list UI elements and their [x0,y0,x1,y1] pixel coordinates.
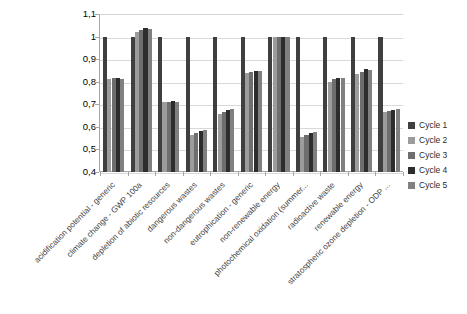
legend-item[interactable]: Cycle 1 [408,118,467,133]
y-axis-tick [95,14,99,15]
bar-group [186,14,207,172]
legend-item-label: Cycle 4 [419,166,447,175]
y-axis-tick [95,82,99,83]
x-axis-tick [128,172,129,176]
x-axis-tick [375,172,376,176]
bar [313,132,317,172]
legend-swatch-icon [408,122,415,129]
bar-group [241,14,262,172]
x-axis-tick [265,172,266,176]
legend-item-label: Cycle 2 [419,136,447,145]
x-axis-tick [183,172,184,176]
y-axis-tick [95,104,99,105]
x-axis-tick [238,172,239,176]
y-axis-labels: 1,110,90,80,70,60,50,4 [72,14,96,172]
bar-chart: 1,110,90,80,70,60,50,4 acidification pot… [0,0,467,314]
bar [258,71,262,172]
y-axis-tick [95,37,99,38]
legend-swatch-icon [408,152,415,159]
legend-swatch-icon [408,137,415,144]
bar-group [158,14,179,172]
bar-group [296,14,317,172]
bars-layer [100,14,403,172]
legend-swatch-icon [408,167,415,174]
bar [203,130,207,172]
x-axis-tick [293,172,294,176]
bar [120,79,124,172]
x-axis-tick [210,172,211,176]
x-axis-labels: acidification potential - genericclimate… [0,176,410,314]
y-axis-tick [95,127,99,128]
legend-item[interactable]: Cycle 4 [408,163,467,178]
legend-item[interactable]: Cycle 3 [408,148,467,163]
bar [175,102,179,172]
legend-item[interactable]: Cycle 2 [408,133,467,148]
y-axis-tick [95,59,99,60]
bar-group [378,14,399,172]
legend-item[interactable]: Cycle 5 [408,178,467,193]
bar [148,29,152,172]
bar-group [351,14,372,172]
bar-group [213,14,234,172]
legend-item-label: Cycle 5 [419,181,447,190]
bar [341,78,345,172]
gridline [100,173,403,174]
y-axis-tick [95,149,99,150]
x-axis-tick [403,172,404,176]
x-axis-tick [348,172,349,176]
bar-group [131,14,152,172]
legend-swatch-icon [408,182,415,189]
x-axis-category-label: climate change - GWP 100a [0,181,144,314]
bar [285,37,289,172]
bar [396,109,400,172]
x-axis-tick [155,172,156,176]
bar-group [323,14,344,172]
legend-item-label: Cycle 3 [419,151,447,160]
y-axis-tick [95,172,99,173]
x-axis-tick [100,172,101,176]
x-axis-tick [320,172,321,176]
bar [230,109,234,172]
bar-group [268,14,289,172]
bar [368,70,372,172]
bar-group [103,14,124,172]
legend-item-label: Cycle 1 [419,121,447,130]
chart-legend: Cycle 1Cycle 2Cycle 3Cycle 4Cycle 5 [408,118,467,193]
